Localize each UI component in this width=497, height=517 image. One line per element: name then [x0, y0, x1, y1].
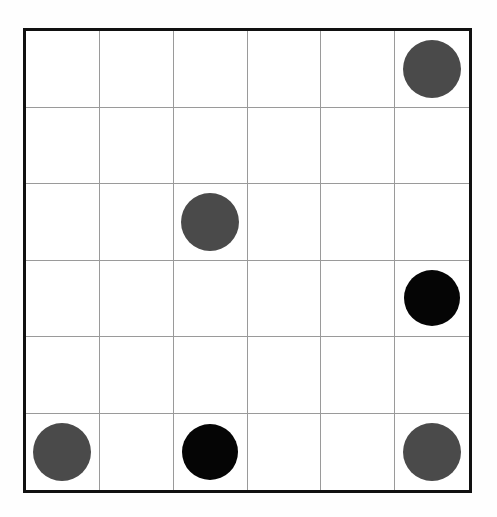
gray-disc[interactable] [403, 423, 461, 481]
grid-cell-r4-c2[interactable] [100, 261, 174, 338]
grid-cell-r4-c4[interactable] [248, 261, 322, 338]
grid-cell-r1-c1[interactable] [26, 31, 100, 108]
grid-board [23, 28, 472, 493]
grid-cell-r2-c6[interactable] [395, 108, 469, 185]
grid-cell-r6-c5[interactable] [321, 414, 395, 491]
grid-cell-r3-c4[interactable] [248, 184, 322, 261]
grid-cell-r5-c3[interactable] [174, 337, 248, 414]
grid-cell-r6-c4[interactable] [248, 414, 322, 491]
grid-cell-r5-c5[interactable] [321, 337, 395, 414]
grid-cell-r2-c4[interactable] [248, 108, 322, 185]
grid-cell-r2-c1[interactable] [26, 108, 100, 185]
grid-cell-r5-c2[interactable] [100, 337, 174, 414]
black-disc[interactable] [404, 270, 460, 326]
grid-cell-r4-c3[interactable] [174, 261, 248, 338]
grid-cell-r3-c1[interactable] [26, 184, 100, 261]
gray-disc[interactable] [403, 40, 461, 98]
grid-cell-r4-c5[interactable] [321, 261, 395, 338]
grid-cell-r2-c5[interactable] [321, 108, 395, 185]
grid-cell-r1-c3[interactable] [174, 31, 248, 108]
grid-cell-r4-c6[interactable] [395, 261, 469, 338]
grid-cell-r1-c6[interactable] [395, 31, 469, 108]
grid-cell-r2-c3[interactable] [174, 108, 248, 185]
gray-disc[interactable] [181, 193, 239, 251]
grid-cell-r6-c2[interactable] [100, 414, 174, 491]
grid-cells-container [26, 31, 469, 490]
grid-cell-r2-c2[interactable] [100, 108, 174, 185]
grid-cell-r3-c5[interactable] [321, 184, 395, 261]
grid-cell-r4-c1[interactable] [26, 261, 100, 338]
grid-cell-r3-c6[interactable] [395, 184, 469, 261]
gray-disc[interactable] [33, 423, 91, 481]
grid-cell-r5-c4[interactable] [248, 337, 322, 414]
grid-cell-r3-c3[interactable] [174, 184, 248, 261]
grid-cell-r3-c2[interactable] [100, 184, 174, 261]
grid-cell-r1-c2[interactable] [100, 31, 174, 108]
grid-cell-r6-c6[interactable] [395, 414, 469, 491]
grid-cell-r6-c3[interactable] [174, 414, 248, 491]
page-canvas [0, 0, 497, 517]
grid-cell-r5-c6[interactable] [395, 337, 469, 414]
black-disc[interactable] [182, 424, 238, 480]
grid-cell-r1-c4[interactable] [248, 31, 322, 108]
grid-cell-r5-c1[interactable] [26, 337, 100, 414]
grid-cell-r6-c1[interactable] [26, 414, 100, 491]
grid-cell-r1-c5[interactable] [321, 31, 395, 108]
